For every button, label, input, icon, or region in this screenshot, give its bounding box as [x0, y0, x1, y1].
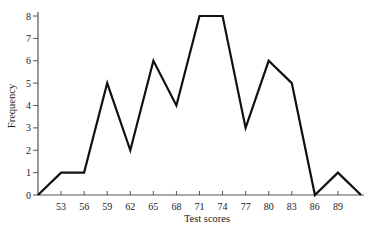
x-tick-label: 56 [79, 201, 89, 212]
x-tick-label: 68 [171, 201, 181, 212]
y-tick-label: 7 [26, 33, 31, 44]
x-tick-label: 77 [241, 201, 251, 212]
x-tick-label: 80 [264, 201, 274, 212]
y-tick-label: 3 [26, 122, 31, 133]
y-tick-label: 0 [26, 190, 31, 201]
x-tick-label: 74 [218, 201, 228, 212]
frequency-line [38, 16, 361, 195]
y-tick-label: 4 [26, 100, 31, 111]
y-tick-label: 6 [26, 55, 31, 66]
x-axis-title: Test scores [184, 213, 230, 224]
y-axis: 012345678 [26, 11, 38, 201]
x-tick-label: 89 [333, 201, 343, 212]
x-tick-label: 53 [56, 201, 66, 212]
x-tick-label: 65 [148, 201, 158, 212]
y-tick-label: 1 [26, 167, 31, 178]
y-tick-label: 2 [26, 145, 31, 156]
x-tick-label: 86 [310, 201, 320, 212]
x-tick-label: 62 [125, 201, 135, 212]
y-axis-title: Frequency [6, 83, 17, 128]
x-tick-label: 83 [287, 201, 297, 212]
y-tick-label: 5 [26, 78, 31, 89]
x-tick-label: 71 [195, 201, 205, 212]
frequency-polygon-chart: 012345678 53565962656871747780838689 Tes… [0, 0, 370, 236]
y-tick-label: 8 [26, 11, 31, 22]
x-tick-label: 59 [102, 201, 112, 212]
